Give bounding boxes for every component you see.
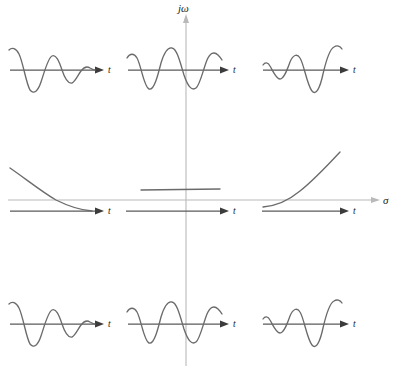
panel-bottom-center: t bbox=[127, 302, 236, 343]
panel-middle-center: t bbox=[126, 189, 236, 216]
panel-top-center-waveform bbox=[127, 48, 222, 89]
panel-top-center: t bbox=[127, 48, 236, 89]
panel-top-center-t-label: t bbox=[233, 65, 236, 75]
panel-bottom-right-t-label: t bbox=[353, 319, 356, 329]
panel-middle-right-waveform bbox=[263, 152, 340, 207]
panel-middle-right-t-arrowhead bbox=[340, 208, 349, 215]
panel-middle-left-t-label: t bbox=[108, 206, 111, 216]
panel-bottom-center-waveform bbox=[127, 302, 222, 343]
jw-axis-arrowhead bbox=[183, 14, 189, 23]
sigma-axis-arrowhead bbox=[371, 197, 380, 203]
sigma-axis-label: σ bbox=[383, 194, 389, 206]
panel-bottom-center-t-arrowhead bbox=[220, 321, 229, 328]
panel-bottom-left-t-label: t bbox=[108, 319, 111, 329]
panel-middle-left: t bbox=[10, 168, 111, 216]
panel-bottom-left-t-arrowhead bbox=[95, 321, 104, 328]
panel-middle-left-t-arrowhead bbox=[95, 208, 104, 215]
panel-bottom-right: t bbox=[263, 300, 356, 347]
panel-top-right: t bbox=[263, 46, 356, 93]
jw-axis-label: jω bbox=[176, 2, 189, 14]
panel-bottom-right-waveform bbox=[263, 300, 342, 347]
panel-bottom-right-t-arrowhead bbox=[340, 321, 349, 328]
panel-middle-center-t-label: t bbox=[233, 206, 236, 216]
panel-middle-left-waveform bbox=[10, 168, 92, 211]
panel-bottom-left: t bbox=[9, 302, 111, 346]
panel-top-right-waveform bbox=[263, 46, 342, 93]
panel-middle-center-t-arrowhead bbox=[220, 208, 229, 215]
splane-response-figure: jω σ t t t t bbox=[0, 0, 393, 370]
panel-middle-right: t bbox=[262, 152, 356, 216]
panel-top-left-t-arrowhead bbox=[95, 67, 104, 74]
panel-middle-right-t-label: t bbox=[353, 206, 356, 216]
panel-top-left: t bbox=[9, 48, 111, 92]
panel-top-left-t-label: t bbox=[108, 65, 111, 75]
panel-top-right-t-label: t bbox=[353, 65, 356, 75]
panel-bottom-center-t-label: t bbox=[233, 319, 236, 329]
splane-diagram: jω σ t t t t bbox=[0, 0, 393, 370]
panel-middle-center-waveform bbox=[141, 189, 220, 190]
panel-top-center-t-arrowhead bbox=[220, 67, 229, 74]
panel-top-right-t-arrowhead bbox=[340, 67, 349, 74]
